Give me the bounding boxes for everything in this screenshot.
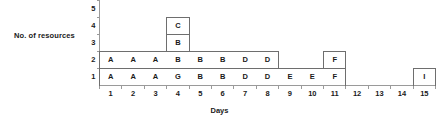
cell-label-day4-level4: C	[167, 21, 189, 30]
cell-label-day1-level1: A	[100, 72, 122, 81]
resource-histogram-chart: No. of resources 54321 AAAAAAGBBCBBBBDDD…	[0, 0, 439, 120]
cell-label-day7-level1: D	[234, 72, 256, 81]
cell-label-day10-level1: E	[301, 72, 323, 81]
cell-label-day6-level1: B	[212, 72, 234, 81]
cell-label-day5-level2: B	[189, 55, 211, 64]
cell-label-day2-level2: A	[122, 55, 144, 64]
x-axis-tick-2: 2	[122, 89, 144, 98]
x-axis-tick-11: 11	[324, 89, 346, 98]
x-axis-tick-1: 1	[100, 89, 122, 98]
x-axis-title: Days	[0, 106, 439, 115]
x-axis-tick-8: 8	[257, 89, 279, 98]
x-axis-tick-12: 12	[346, 89, 368, 98]
x-axis-tick-5: 5	[189, 89, 211, 98]
x-axis-tick-15: 15	[413, 89, 435, 98]
cell-label-day15-level1: I	[413, 72, 435, 81]
cell-label-day6-level2: B	[212, 55, 234, 64]
cell-label-day2-level1: A	[122, 72, 144, 81]
cell-label-day4-level2: B	[167, 55, 189, 64]
x-axis-tick-14: 14	[391, 89, 413, 98]
cell-label-day3-level1: A	[145, 72, 167, 81]
cell-label-day4-level3: B	[167, 38, 189, 47]
cell-label-day11-level1: F	[324, 72, 346, 81]
cell-label-day3-level2: A	[145, 55, 167, 64]
x-axis-tick-4: 4	[167, 89, 189, 98]
cell-label-day7-level2: D	[234, 55, 256, 64]
x-axis-tick-9: 9	[279, 89, 301, 98]
cell-label-day5-level1: B	[189, 72, 211, 81]
x-axis-tick-10: 10	[301, 89, 323, 98]
cell-label-day9-level1: E	[279, 72, 301, 81]
cell-label-day11-level2: F	[324, 55, 346, 64]
x-axis-tick-6: 6	[212, 89, 234, 98]
cell-label-day8-level2: D	[257, 55, 279, 64]
x-axis-tick-3: 3	[145, 89, 167, 98]
cell-label-day8-level1: D	[257, 72, 279, 81]
x-axis-tick-13: 13	[369, 89, 391, 98]
cell-label-day4-level1: G	[167, 72, 189, 81]
cell-label-day1-level2: A	[100, 55, 122, 64]
x-axis-tick-7: 7	[234, 89, 256, 98]
